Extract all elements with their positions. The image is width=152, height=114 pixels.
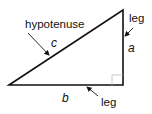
- right-angle-mark: [112, 75, 123, 85]
- leg-vertical-label: leg: [129, 12, 144, 24]
- hypotenuse-arrow: [28, 33, 49, 55]
- right-triangle-diagram: hypotenuse c leg a b leg: [0, 0, 152, 114]
- leg-horizontal-arrow: [87, 87, 98, 96]
- leg-vertical-arrow: [125, 28, 133, 36]
- leg-horizontal-label: leg: [101, 96, 116, 108]
- hypotenuse-label: hypotenuse: [25, 18, 84, 30]
- side-c-label: c: [51, 36, 57, 50]
- side-b-label: b: [62, 91, 69, 105]
- side-a-label: a: [128, 41, 135, 55]
